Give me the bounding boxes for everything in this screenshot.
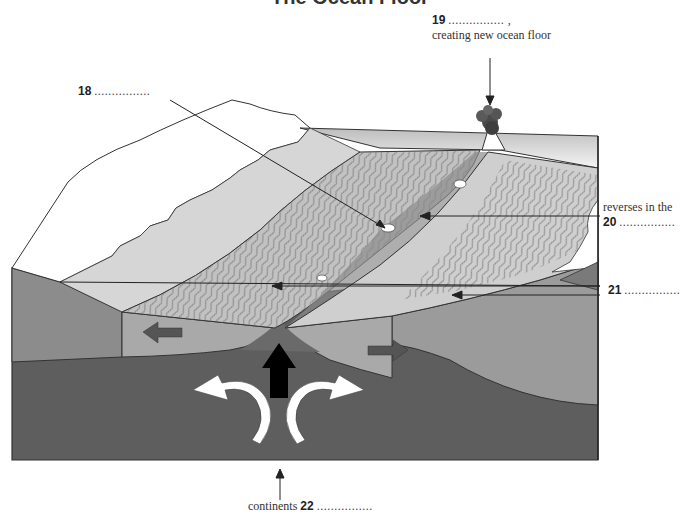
label-20-text: reverses in the [603, 200, 675, 215]
question-number-22: 22 [300, 499, 313, 513]
question-number-20: 20 [603, 215, 616, 229]
answer-blank-20[interactable]: ................ [619, 215, 675, 229]
seafloor-spreading-diagram [0, 0, 694, 525]
answer-blank-22[interactable]: ................ [317, 499, 373, 513]
question-number-18: 18 [78, 84, 91, 98]
answer-blank-19[interactable]: ................ , [448, 13, 511, 27]
label-18: 18 ................ [78, 84, 150, 99]
label-21: 21 ................ [608, 283, 680, 298]
label-20: reverses in the 20 ................ [603, 200, 675, 230]
question-number-19: 19 [432, 13, 445, 27]
answer-blank-21[interactable]: ................ [624, 283, 680, 297]
label-19: 19 ................ , creating new ocean… [432, 13, 551, 43]
label-19-text: creating new ocean floor [432, 28, 551, 43]
question-number-21: 21 [608, 283, 621, 297]
label-22-text: continents [248, 499, 297, 513]
label-22: continents 22 ................ [248, 499, 373, 514]
answer-blank-18[interactable]: ................ [94, 84, 150, 98]
